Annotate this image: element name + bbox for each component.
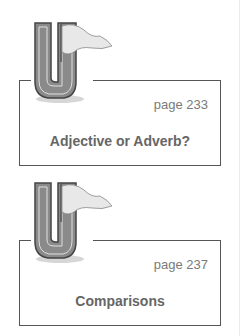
section-card-comparisons[interactable]: page 237 Comparisons bbox=[0, 160, 241, 328]
letter-u-flag-icon bbox=[30, 180, 120, 264]
section-card-adjective-or-adverb[interactable]: page 233 Adjective or Adverb? bbox=[0, 0, 241, 168]
section-title: Adjective or Adverb? bbox=[19, 133, 221, 149]
section-title: Comparisons bbox=[19, 293, 221, 309]
letter-u-flag-icon bbox=[30, 20, 120, 104]
page-number: page 233 bbox=[128, 97, 208, 112]
page-number: page 237 bbox=[128, 257, 208, 272]
